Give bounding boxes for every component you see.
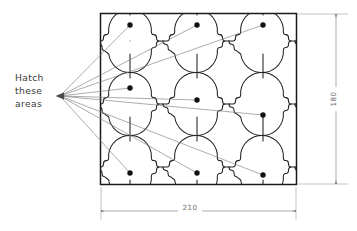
hatch-note-line-1: Hatch — [15, 72, 44, 83]
drawing-canvas: Hatch these areas 210 180 — [0, 0, 357, 231]
width-dimension-label: 210 — [182, 203, 197, 212]
center-dot — [127, 170, 132, 175]
center-dot — [260, 112, 265, 117]
center-dot — [260, 172, 265, 177]
height-dimension-label: 180 — [329, 91, 338, 106]
hatch-note-line-3: areas — [15, 98, 42, 109]
center-dot — [260, 22, 265, 27]
hatch-note-line-2: these — [15, 85, 42, 96]
pattern-field — [97, 9, 304, 198]
technical-drawing: Hatch these areas 210 180 — [0, 0, 357, 231]
center-dot — [194, 22, 199, 27]
center-dot — [194, 97, 199, 102]
center-dot — [194, 170, 199, 175]
center-dot — [127, 22, 132, 27]
hatch-note: Hatch these areas — [15, 72, 44, 109]
center-dot — [127, 85, 132, 90]
